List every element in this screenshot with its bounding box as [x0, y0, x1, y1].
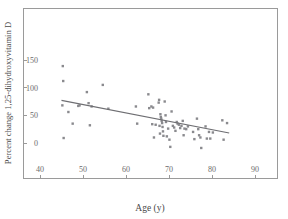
- data-point: [86, 91, 88, 93]
- data-point: [152, 106, 154, 108]
- y-axis-tick-marks: [24, 60, 28, 143]
- regression-line: [62, 100, 230, 133]
- y-tick-label: 100: [26, 84, 38, 93]
- x-tick-label: 90: [251, 165, 259, 174]
- data-point: [174, 130, 176, 132]
- data-point: [162, 130, 164, 132]
- data-point: [169, 146, 171, 148]
- data-point: [185, 128, 187, 130]
- figure-container: 405060708090 050100150 Age (y) Percent c…: [0, 0, 288, 219]
- data-point: [221, 119, 223, 121]
- x-tick-label: 40: [36, 165, 44, 174]
- data-point: [158, 99, 160, 101]
- data-point: [62, 137, 64, 139]
- data-point: [199, 136, 201, 138]
- data-point: [102, 84, 104, 86]
- data-point: [159, 132, 161, 134]
- data-point: [197, 128, 199, 130]
- data-point: [157, 101, 159, 103]
- data-point: [200, 147, 202, 149]
- data-point: [193, 138, 195, 140]
- data-point: [192, 131, 194, 133]
- data-point: [180, 125, 182, 127]
- regression-line-group: [62, 100, 230, 133]
- data-point: [206, 137, 208, 139]
- x-tick-label: 70: [165, 165, 173, 174]
- data-point: [198, 134, 200, 136]
- x-axis-tick-marks: [40, 175, 255, 179]
- data-point: [162, 135, 164, 137]
- data-point: [208, 131, 210, 133]
- data-point: [204, 125, 206, 127]
- data-point: [148, 107, 150, 109]
- data-point: [151, 123, 153, 125]
- data-point: [62, 80, 64, 82]
- data-point: [226, 122, 228, 124]
- data-point: [159, 113, 161, 115]
- x-tick-label: 80: [208, 165, 216, 174]
- data-point: [161, 126, 163, 128]
- data-point: [62, 65, 64, 67]
- data-point: [182, 134, 184, 136]
- x-axis-tick-labels: 405060708090: [36, 165, 259, 174]
- y-axis-tick-labels: 050100150: [26, 56, 38, 148]
- data-point: [87, 102, 89, 104]
- data-point: [161, 122, 163, 124]
- data-point: [168, 138, 170, 140]
- data-point: [196, 117, 198, 119]
- data-point: [61, 104, 63, 106]
- data-point: [136, 122, 138, 124]
- data-point: [147, 93, 149, 95]
- y-axis-title: Percent change 1,25-dihydroxyvitamin D: [3, 22, 13, 164]
- data-point: [71, 122, 73, 124]
- data-point: [182, 120, 184, 122]
- data-point: [222, 138, 224, 140]
- data-points-group: [61, 65, 228, 149]
- data-point: [166, 135, 168, 137]
- data-point: [173, 126, 175, 128]
- data-point: [89, 124, 91, 126]
- data-point: [167, 127, 169, 129]
- x-axis-title: Age (y): [135, 203, 164, 214]
- data-point: [212, 131, 214, 133]
- data-point: [67, 111, 69, 113]
- x-tick-label: 50: [79, 165, 87, 174]
- data-point: [158, 125, 160, 127]
- data-point: [164, 114, 166, 116]
- x-tick-label: 60: [122, 165, 130, 174]
- data-point: [170, 110, 172, 112]
- data-point: [164, 100, 166, 102]
- plot-frame: [24, 9, 278, 179]
- data-point: [154, 124, 156, 126]
- scatter-plot: 405060708090 050100150 Age (y) Percent c…: [0, 0, 288, 219]
- data-point: [153, 136, 155, 138]
- data-point: [135, 105, 137, 107]
- data-point: [179, 127, 181, 129]
- y-tick-label: 150: [26, 56, 38, 65]
- y-tick-label: 0: [34, 139, 38, 148]
- data-point: [209, 137, 211, 139]
- y-tick-label: 50: [30, 111, 38, 120]
